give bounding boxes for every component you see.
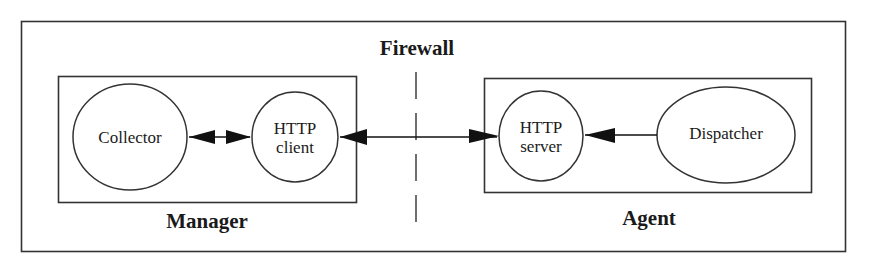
http-server-label-line2: server	[520, 137, 562, 156]
dispatcher-label: Dispatcher	[689, 124, 763, 143]
firewall-label: Firewall	[380, 36, 454, 61]
manager-label: Manager	[166, 209, 248, 234]
collector-label: Collector	[98, 128, 161, 147]
arrowhead-left-icon	[585, 128, 615, 143]
arrowhead-left-icon	[340, 129, 367, 145]
http-client-label-line2: client	[276, 138, 314, 157]
http-server-label-line1: HTTP	[520, 118, 563, 137]
arrowhead-right-icon	[226, 130, 251, 144]
arrowhead-left-icon	[189, 130, 215, 144]
agent-label: Agent	[622, 206, 676, 231]
http-client-label-line1: HTTP	[274, 119, 317, 138]
